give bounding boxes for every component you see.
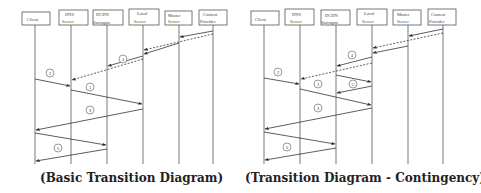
arrow-client-to-dcdn: [264, 132, 335, 144]
actor-label-local-2: Server: [134, 19, 146, 24]
actor-label-content-1: Content: [431, 12, 446, 17]
basic-sequence-svg: Client DNS Server DCDN Surrogate Local S…: [0, 0, 240, 175]
actor-label-local-2: Server: [362, 19, 374, 24]
arrow-master-to-local: [144, 43, 179, 54]
step-label-contingency: C: [352, 82, 355, 87]
actor-label-dns-1: DNS: [65, 12, 74, 17]
arrow-cp-to-master: [180, 31, 213, 37]
actor-label-content-2: Provider: [429, 19, 445, 24]
arrow-master-to-local: [373, 46, 408, 53]
actor-label-dcdn-2: Surrogate: [93, 20, 111, 25]
actor-label-master-1: Master: [168, 13, 181, 18]
arrow-local-to-dns-dashed: [301, 63, 372, 79]
contingency-sequence-svg: Client DNS Server DCDN Surrogate Local S…: [240, 0, 481, 175]
actor-label-local-1: Local: [364, 11, 375, 16]
arrow-cp-to-local-dashed: [144, 34, 213, 50]
arrow-cp-to-master: [409, 29, 443, 36]
caption-basic: (Basic Transition Diagram): [40, 171, 210, 185]
contingency-transition-diagram: Client DNS Server DCDN Surrogate Local S…: [240, 0, 481, 175]
arrow-client-to-dns: [264, 78, 299, 84]
arrow-local-to-dns-dashed: [72, 59, 143, 80]
actor-label-client: Client: [27, 17, 39, 22]
caption-contingency: (Transition Diagram - Contingency): [245, 171, 475, 185]
arrow-dcdn-to-client: [36, 149, 107, 161]
actor-label-client: Client: [255, 17, 267, 22]
basic-transition-diagram: Client DNS Server DCDN Surrogate Local S…: [0, 0, 240, 175]
actor-label-dns-2: Server: [62, 19, 74, 24]
arrow-client-to-dns: [35, 79, 70, 86]
actor-label-master-1: Master: [397, 12, 410, 17]
actor-label-local-1: Local: [137, 11, 148, 16]
actor-label-dns-1: DNS: [292, 12, 301, 17]
arrow-dns-to-local: [300, 89, 371, 105]
arrow-dns-to-local: [71, 90, 142, 104]
actor-label-dcdn-1: DCDN: [325, 13, 339, 18]
actor-label-content-1: Content: [203, 12, 218, 17]
arrow-dcdn-to-client: [265, 148, 336, 160]
arrow-client-to-dcdn: [35, 133, 106, 145]
actor-label-master-2: Server: [168, 19, 180, 24]
actor-label-dcdn-2: Surrogate: [321, 20, 339, 25]
actor-label-content-2: Provider: [200, 19, 216, 24]
actor-label-dcdn-1: DCDN: [96, 12, 110, 17]
actor-label-master-2: Server: [397, 19, 409, 24]
actor-label-dns-2: Server: [290, 19, 302, 24]
